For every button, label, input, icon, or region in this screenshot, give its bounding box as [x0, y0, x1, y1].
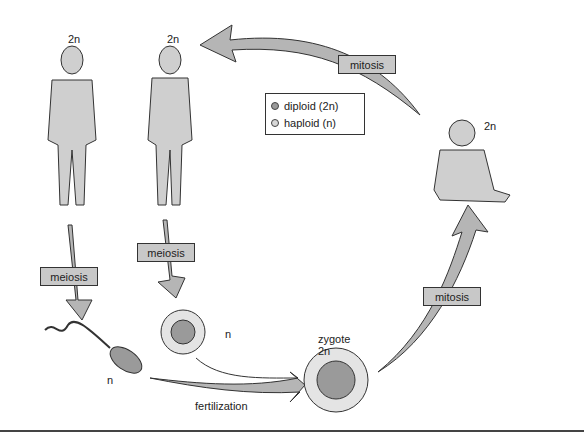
legend-item-diploid: diploid (2n): [271, 97, 359, 114]
mitosis-right-label: mitosis: [423, 287, 481, 306]
baby-ploidy-label: 2n: [484, 120, 496, 132]
legend-item-haploid: haploid (n): [271, 114, 359, 131]
diploid-swatch-icon: [271, 102, 279, 110]
meiosis-female-label: meiosis: [137, 243, 195, 262]
legend-label-diploid: diploid (2n): [284, 100, 338, 112]
baby-figure: [434, 120, 510, 202]
female-figure: [148, 46, 192, 205]
zygote-cell: [304, 348, 368, 412]
male-ploidy-label: 2n: [68, 33, 80, 45]
diagram-artwork: [0, 0, 584, 437]
female-ploidy-label: 2n: [167, 33, 179, 45]
mitosis-top-label: mitosis: [338, 55, 396, 74]
meiosis-male-label: meiosis: [40, 267, 98, 286]
zygote-ploidy-label: 2n: [318, 345, 330, 357]
male-figure: [48, 46, 96, 205]
zygote-label: zygote: [318, 333, 350, 345]
sperm-ploidy-label: n: [107, 374, 113, 386]
haploid-swatch-icon: [271, 119, 279, 127]
egg-cell: [161, 310, 205, 354]
bottom-rule: [0, 430, 584, 432]
sperm-cell: [45, 322, 146, 379]
fertilization-arrow-egg: [196, 358, 298, 378]
legend-label-haploid: haploid (n): [284, 117, 336, 129]
legend: diploid (2n) haploid (n): [265, 93, 365, 135]
egg-ploidy-label: n: [225, 328, 231, 340]
fertilization-label: fertilization: [195, 400, 248, 412]
fertilization-arrow: [150, 372, 305, 402]
